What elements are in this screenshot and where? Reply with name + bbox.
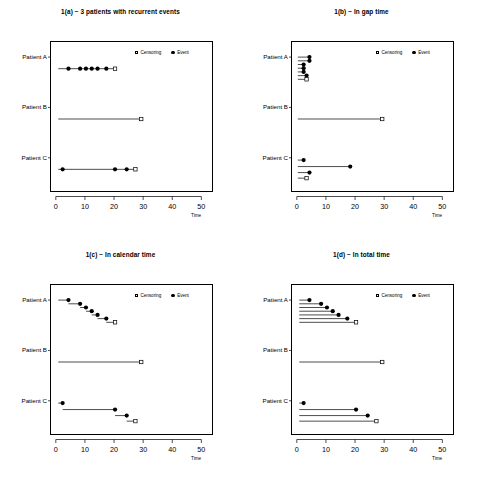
event-marker	[113, 167, 117, 171]
timeline-series-layer	[292, 285, 455, 436]
event-marker	[325, 305, 329, 309]
filled-circle-icon	[412, 294, 416, 298]
timeline-row	[299, 305, 329, 309]
event-marker	[66, 298, 70, 302]
censoring-marker	[113, 67, 116, 70]
y-axis-label-patient-a: Patient A	[1, 53, 47, 60]
event-marker	[78, 67, 82, 71]
plot-area	[291, 284, 454, 435]
legend-item-censoring: Censoring	[376, 293, 402, 298]
event-marker	[331, 309, 335, 313]
censoring-marker	[305, 78, 308, 81]
timeline-row	[106, 321, 116, 324]
event-marker	[307, 55, 311, 59]
event-marker	[61, 167, 65, 171]
event-marker	[104, 67, 108, 71]
event-marker	[345, 317, 349, 321]
legend-item-event: Event	[412, 293, 430, 298]
panel-b: 1(b) − In gap timePatient APatient BPati…	[241, 0, 482, 243]
event-marker	[78, 302, 82, 306]
timeline-row	[298, 170, 312, 174]
y-axis-label-patient-c: Patient C	[1, 396, 47, 403]
event-marker	[302, 70, 306, 74]
timeline-row	[58, 167, 137, 171]
timeline-row	[58, 67, 116, 71]
timeline-row	[298, 55, 312, 59]
panel-title: 1(c) − In calendar time	[0, 251, 241, 258]
legend-item-event: Event	[171, 293, 189, 298]
timeline-row	[299, 313, 340, 317]
open-square-icon	[376, 51, 379, 54]
legend-label-event: Event	[177, 50, 189, 55]
timeline-row	[80, 305, 88, 309]
timeline-row	[127, 419, 137, 422]
event-marker	[84, 67, 88, 71]
legend-item-event: Event	[171, 50, 189, 55]
timeline-row	[299, 317, 349, 321]
x-axis	[291, 439, 454, 451]
x-axis-title: Time	[432, 456, 442, 461]
event-marker	[95, 67, 99, 71]
timeline-row	[58, 401, 64, 405]
open-square-icon	[135, 294, 138, 297]
legend: CensoringEvent	[135, 293, 189, 298]
panel-d: 1(d) − In total timePatient APatient BPa…	[241, 243, 482, 486]
timeline-row	[298, 70, 306, 74]
event-marker	[66, 67, 70, 71]
timeline-series-layer	[51, 42, 214, 193]
event-marker	[307, 298, 311, 302]
event-marker	[304, 74, 308, 78]
event-marker	[90, 67, 94, 71]
plot-area	[50, 41, 213, 192]
legend-item-censoring: Censoring	[135, 293, 161, 298]
timeline-row	[299, 360, 384, 363]
timeline-row	[58, 360, 143, 363]
panel-title: 1(b) − In gap time	[241, 8, 482, 15]
plot-area	[50, 284, 213, 435]
event-marker	[125, 167, 129, 171]
timeline-row	[299, 413, 370, 417]
filled-circle-icon	[412, 51, 416, 55]
timeline-row	[298, 117, 384, 120]
timeline-row	[299, 302, 323, 306]
timeline-row	[58, 117, 143, 120]
event-marker	[61, 401, 65, 405]
legend-label-censoring: Censoring	[140, 50, 161, 55]
legend-label-censoring: Censoring	[381, 293, 402, 298]
event-marker	[90, 309, 94, 313]
legend: CensoringEvent	[376, 50, 430, 55]
censoring-marker	[354, 321, 357, 324]
timeline-row	[98, 317, 109, 321]
event-marker	[302, 66, 306, 70]
timeline-row	[298, 164, 352, 168]
timeline-series-layer	[51, 285, 214, 436]
legend: CensoringEvent	[376, 293, 430, 298]
legend-label-censoring: Censoring	[140, 293, 161, 298]
censoring-marker	[140, 117, 143, 120]
x-axis-title: Time	[191, 213, 201, 218]
event-marker	[84, 305, 88, 309]
y-axis-label-patient-c: Patient C	[242, 396, 288, 403]
timeline-row	[298, 74, 309, 78]
x-axis	[50, 196, 213, 208]
timeline-series-layer	[292, 42, 455, 193]
censoring-marker	[375, 419, 378, 422]
event-marker	[302, 158, 306, 162]
censoring-marker	[305, 176, 308, 179]
timeline-row	[299, 298, 311, 302]
event-marker	[95, 313, 99, 317]
x-axis-title: Time	[191, 456, 201, 461]
timeline-row	[86, 309, 94, 313]
event-marker	[348, 164, 352, 168]
panel-c: 1(c) − In calendar timePatient APatient …	[0, 243, 241, 486]
y-axis-label-patient-c: Patient C	[1, 153, 47, 160]
censoring-marker	[134, 419, 137, 422]
panel-title: 1(a) − 3 patients with recurrent events	[0, 8, 241, 15]
y-axis-label-patient-b: Patient B	[242, 346, 288, 353]
legend-item-censoring: Censoring	[376, 50, 402, 55]
censoring-marker	[134, 168, 137, 171]
event-marker	[125, 413, 129, 417]
legend-label-event: Event	[418, 50, 430, 55]
timeline-row	[298, 59, 312, 63]
event-marker	[354, 407, 358, 411]
